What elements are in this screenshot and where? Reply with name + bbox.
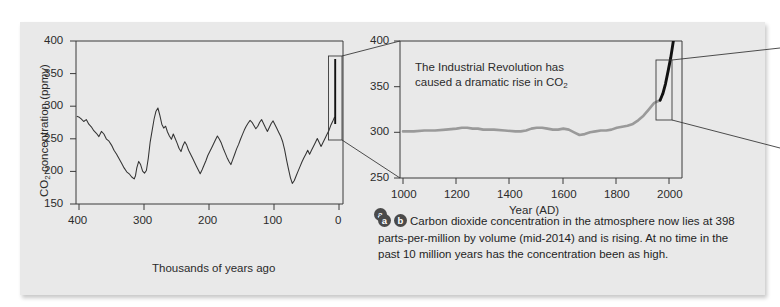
panel-b-annotation-line2-sub: 2 — [563, 81, 567, 90]
panel-b-ytick-250: 250 — [370, 171, 389, 183]
figure-container: 400 350 300 250 200 150 400 300 200 100 … — [0, 0, 780, 307]
panel-b-xtick-2000: 2000 — [657, 188, 683, 200]
panel-b-xtick-1800: 1800 — [604, 188, 630, 200]
panel-b-icecore-series — [403, 100, 660, 135]
figure-caption: abCarbon dioxide concentration in the at… — [378, 213, 750, 263]
panel-b-annotation-line2-text: caused a dramatic rise in CO — [415, 76, 563, 88]
panel-b-annotation-line1: The Industrial Revolution has — [415, 60, 568, 75]
panel-b-xtick-1400: 1400 — [497, 188, 523, 200]
panel-b-annotation-line2: caused a dramatic rise in CO2 — [415, 75, 568, 93]
panel-b-ytick-400: 400 — [370, 34, 389, 46]
caption-badge-a: a — [378, 214, 391, 227]
caption-text: Carbon dioxide concentration in the atmo… — [378, 215, 735, 260]
panel-b-ytick-300: 300 — [370, 125, 389, 137]
panel-b-xtick-1000: 1000 — [391, 188, 417, 200]
panel-b-annotation: The Industrial Revolution has caused a d… — [415, 60, 568, 93]
panel-b-modern-series — [660, 23, 675, 101]
caption-badge-b: b — [394, 214, 407, 227]
panel-b-ytick-350: 350 — [370, 80, 389, 92]
panel-b-xtick-1200: 1200 — [444, 188, 470, 200]
panel-b-xtick-1600: 1600 — [551, 188, 577, 200]
